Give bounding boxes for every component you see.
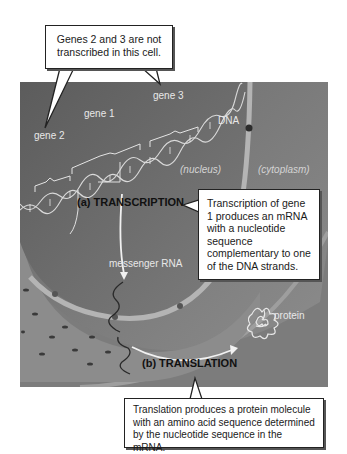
- nucleus-label: (nucleus): [180, 164, 221, 175]
- translation-step-label: (b) TRANSLATION: [142, 357, 237, 369]
- callout-genes-not-transcribed: Genes 2 and 3 are not transcribed in thi…: [45, 25, 173, 69]
- transcription-step-label: (a) TRANSCRIPTION: [77, 196, 184, 208]
- protein-label: protein: [274, 310, 305, 321]
- gene-3-label: gene 3: [153, 90, 184, 101]
- callout-transcription-note: Transcription of gene 1 produces an mRNA…: [198, 189, 320, 280]
- gene-2-label: gene 2: [34, 130, 65, 141]
- cytoplasm-label: (cytoplasm): [258, 164, 310, 175]
- messenger-rna-label: messenger RNA: [109, 258, 182, 269]
- dna-label: DNA: [218, 115, 239, 126]
- callout-translation-note: Translation produces a protein molecule …: [124, 398, 324, 448]
- gene-1-label: gene 1: [84, 108, 115, 119]
